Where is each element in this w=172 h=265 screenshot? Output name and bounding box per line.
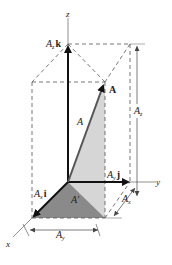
ax-i-label: Axi — [33, 188, 47, 200]
projection-label: A′ — [70, 194, 80, 205]
magnitude-a-label: A — [76, 116, 84, 127]
vector-components-diagram: z y x Azk A A Ayj Axi A′ Ay Ax Az — [0, 0, 172, 265]
x-axis-label: x — [5, 239, 10, 249]
az-k-label: Azk — [45, 38, 61, 50]
z-axis-label: z — [65, 9, 70, 19]
vector-a-label: A — [109, 84, 117, 95]
ay-dimension-label: Ay — [55, 229, 65, 241]
y-axis-label: y — [155, 177, 160, 187]
ay-j-label: Ayj — [106, 169, 120, 181]
